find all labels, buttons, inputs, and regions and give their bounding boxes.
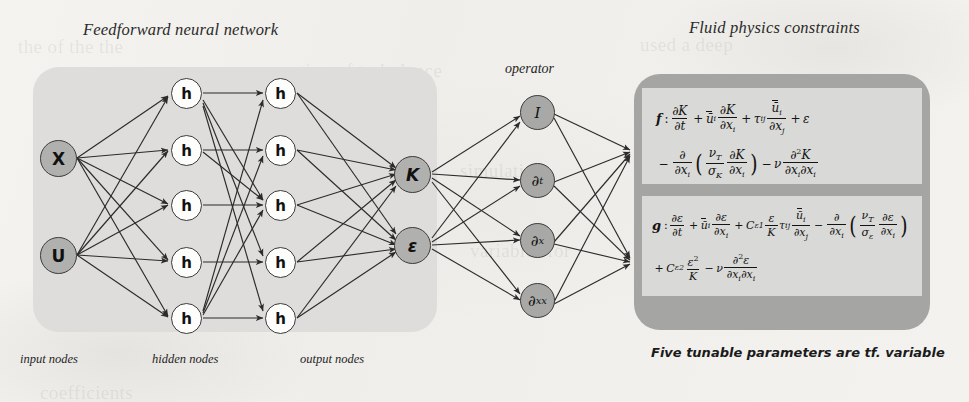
connection-lines (0, 0, 969, 402)
hidden-node-l2-1[interactable]: h (265, 78, 296, 109)
hidden-node-l2-2[interactable]: h (265, 135, 296, 166)
output-node-epsilon[interactable]: ε (394, 227, 431, 264)
operator-node-identity[interactable]: I (520, 95, 555, 130)
operator-identity-symbol: I (535, 104, 541, 122)
hidden-node-l1-5[interactable]: h (171, 303, 202, 334)
right-panel-title: Fluid physics constraints (689, 18, 860, 38)
operator-d-t-symbol: ∂ (532, 172, 540, 190)
figure-canvas: f: ∂K∂t + ūi ∂K∂xi + τij ūi∂xj + ε − ∂∂x… (0, 0, 969, 402)
label-operator: operator (505, 61, 554, 77)
operator-d-x-symbol: ∂ (531, 232, 539, 250)
hidden-node-l1-4[interactable]: h (171, 247, 202, 278)
label-hidden-nodes: hidden nodes (152, 352, 218, 367)
input-node-x[interactable]: X (40, 140, 77, 177)
operator-d-xx-symbol: ∂ (528, 292, 536, 310)
operator-d-t-subscript: t (539, 175, 543, 186)
hidden-node-l1-1[interactable]: h (171, 78, 202, 109)
left-panel-title: Feedforward neural network (83, 20, 278, 40)
label-output-nodes: output nodes (300, 352, 364, 367)
operator-node-d-xx[interactable]: ∂xx (520, 283, 555, 318)
hidden-node-l2-5[interactable]: h (265, 303, 296, 334)
operator-node-d-x[interactable]: ∂x (520, 223, 555, 258)
hidden-node-l2-3[interactable]: h (265, 190, 296, 221)
operator-node-d-t[interactable]: ∂t (520, 163, 555, 198)
hidden-node-l2-4[interactable]: h (265, 247, 296, 278)
operator-d-xx-subscript: xx (536, 295, 547, 306)
label-input-nodes: input nodes (20, 352, 78, 367)
hidden-node-l1-3[interactable]: h (171, 190, 202, 221)
input-node-u[interactable]: U (40, 237, 77, 274)
output-node-k[interactable]: K (394, 156, 431, 193)
right-panel-caption: Five tunable parameters are tf. variable (651, 345, 945, 360)
operator-d-x-subscript: x (539, 235, 545, 246)
hidden-node-l1-2[interactable]: h (171, 135, 202, 166)
